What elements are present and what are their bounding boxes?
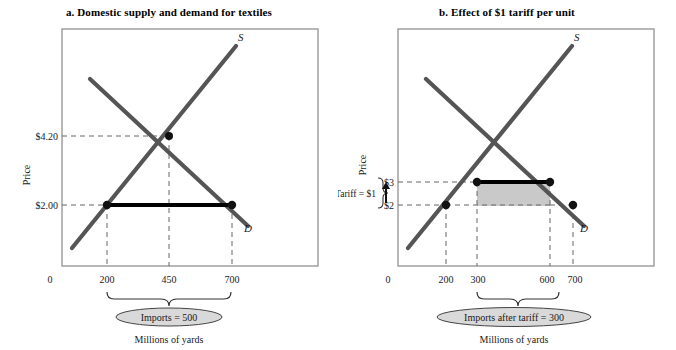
point-domestic-demand [228,201,236,209]
panel-b-plot: S D $3 $2 Tariff = $1 Price 0 200 300 60… [338,0,676,350]
demand-curve-label: D [243,222,252,234]
panel-a: a. Domestic supply and demand for textil… [0,0,338,350]
x-axis-label: Millions of yards [480,334,549,345]
xtick-200: 200 [439,274,454,285]
panel-a-plot: S D $4.20 $2.00 Price 0 200 450 700 Impo… [0,0,338,350]
imports-after-tariff-callout-label: Imports after tariff = 300 [464,312,564,323]
xtick-700: 700 [225,274,240,285]
ytick-200: $2.00 [36,200,59,211]
imports-brace [107,292,231,306]
xtick-0: 0 [386,274,391,285]
plot-frame [62,29,318,266]
xtick-600: 600 [540,274,555,285]
xtick-0: 0 [48,274,53,285]
supply-curve-label: S [574,31,580,43]
plot-frame [398,29,654,266]
xtick-700: 700 [568,274,583,285]
point-supply-world-price [442,201,450,209]
y-axis-label: Price [357,154,368,175]
ytick-420: $4.20 [36,131,59,142]
point-domestic-supply [103,201,111,209]
xtick-450: 450 [162,274,177,285]
imports-callout-label: Imports = 500 [141,312,198,323]
demand-curve-label: D [579,222,588,234]
point-supply-after-tariff [473,178,481,186]
point-demand-world-price [569,201,577,209]
y-axis-label: Price [21,164,32,185]
xtick-300: 300 [471,274,486,285]
tariff-label: Tariff = $1 [338,189,376,199]
point-demand-after-tariff [546,178,554,186]
panel-b: b. Effect of $1 tariff per unit S D $3 $… [338,0,676,350]
xtick-200: 200 [100,274,115,285]
x-axis-label: Millions of yards [135,334,204,345]
supply-curve-label: S [238,31,244,43]
imports-after-tariff-brace [477,292,559,306]
point-equilibrium [165,132,173,140]
